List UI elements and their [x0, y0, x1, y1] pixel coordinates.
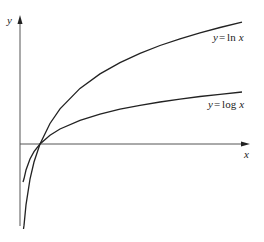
- log-curve-label: y=logx: [207, 98, 244, 110]
- ln-label-eq: =: [219, 31, 225, 43]
- ln-x-curve: [24, 22, 243, 229]
- y-axis-arrow-icon: [18, 15, 23, 24]
- log-label-arg: x: [238, 98, 244, 110]
- log-label-func: log: [222, 98, 237, 110]
- ln-label-arg: x: [238, 31, 244, 43]
- y-axis-label: y: [6, 14, 12, 26]
- x-axis-arrow-icon: [241, 142, 250, 147]
- x-axis-label: x: [243, 148, 249, 160]
- ln-curve-label: y=lnx: [212, 31, 244, 43]
- log-ln-graph: y x y=lnx y=logx: [0, 0, 264, 242]
- ln-label-var: y: [212, 31, 218, 43]
- log-label-var: y: [207, 98, 213, 110]
- log-label-eq: =: [214, 98, 220, 110]
- ln-label-func: ln: [227, 31, 236, 43]
